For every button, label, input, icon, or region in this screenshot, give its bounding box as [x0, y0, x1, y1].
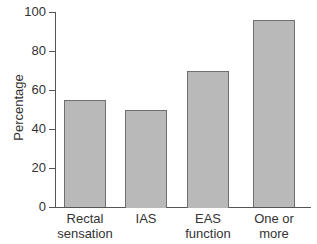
- x-axis-line: [49, 207, 311, 208]
- y-tick: [49, 90, 55, 91]
- y-tick-label: 20: [10, 161, 46, 175]
- y-tick: [49, 207, 55, 208]
- bar: [125, 110, 167, 208]
- y-tick: [49, 168, 55, 169]
- y-tick-label: 60: [10, 83, 46, 97]
- y-axis-line: [55, 12, 56, 208]
- bar-chart: Percentage 020406080100 Rectal sensation…: [0, 0, 317, 244]
- y-tick: [49, 51, 55, 52]
- y-tick-label: 80: [10, 44, 46, 58]
- y-tick-label: 40: [10, 122, 46, 136]
- bar: [64, 100, 106, 207]
- y-tick-label: 0: [10, 200, 46, 214]
- y-tick: [49, 12, 55, 13]
- bar: [187, 71, 229, 208]
- y-tick-label: 100: [10, 5, 46, 19]
- y-tick: [49, 129, 55, 130]
- x-tick-label: One or more: [234, 211, 314, 241]
- bar: [253, 20, 295, 207]
